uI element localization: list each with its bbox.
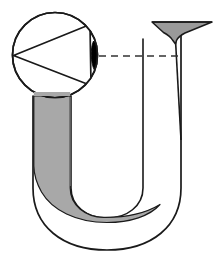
figure-root: U-tube with funnel and magnified inset A… — [0, 0, 219, 259]
u-tube-diagram — [0, 0, 219, 259]
liquid-top-under-inset — [34, 92, 70, 96]
